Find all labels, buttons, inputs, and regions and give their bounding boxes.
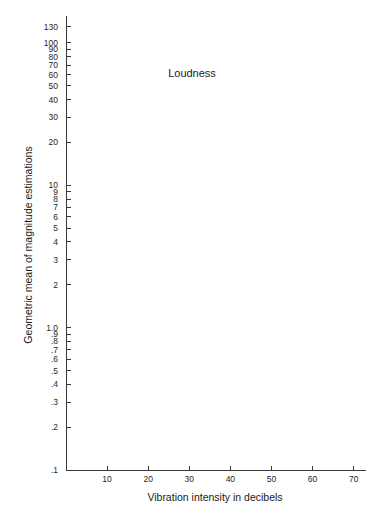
y-tick-label: .5 (51, 366, 58, 376)
x-tick-label: 60 (308, 474, 318, 484)
chart-title: Loudness (168, 67, 216, 79)
x-tick-label: 10 (102, 474, 112, 484)
y-tick-label: 3 (53, 255, 58, 265)
y-tick-label: 20 (49, 137, 59, 147)
y-axis-title: Geometric mean of magnitude estimations (22, 146, 34, 343)
y-tick-label: .3 (51, 397, 58, 407)
y-tick-label: 2 (53, 280, 58, 290)
axes-layer (66, 16, 366, 470)
y-tick-label: 1.0 (46, 323, 58, 333)
y-tick-label: .4 (51, 379, 58, 389)
scatter-plot: .1.2.3.4.5.6.7.8.91.02345678910203040506… (0, 0, 373, 513)
y-tick-label: 30 (49, 112, 59, 122)
y-tick-layer: .1.2.3.4.5.6.7.8.91.02345678910203040506… (44, 22, 71, 475)
x-tick-label: 40 (226, 474, 236, 484)
x-tick-label: 20 (143, 474, 153, 484)
y-tick-label: 50 (49, 81, 59, 91)
y-tick-label: 10 (49, 180, 59, 190)
y-tick-label: .6 (51, 354, 58, 364)
x-tick-label: 70 (349, 474, 359, 484)
y-tick-label: 100 (44, 38, 58, 48)
x-tick-label: 50 (267, 474, 277, 484)
x-tick-layer: 10203040506070 (102, 466, 358, 484)
x-axis-title: Vibration intensity in decibels (147, 491, 282, 503)
y-tick-label: 60 (49, 70, 59, 80)
y-tick-label: 40 (49, 95, 59, 105)
y-tick-label: 130 (44, 22, 58, 32)
y-tick-label: .1 (51, 465, 58, 475)
chart-figure: .1.2.3.4.5.6.7.8.91.02345678910203040506… (0, 0, 373, 513)
x-tick-label: 30 (185, 474, 195, 484)
y-tick-label: .2 (51, 422, 58, 432)
y-tick-label: 5 (53, 223, 58, 233)
y-tick-label: 6 (53, 212, 58, 222)
y-tick-label: 4 (53, 237, 58, 247)
